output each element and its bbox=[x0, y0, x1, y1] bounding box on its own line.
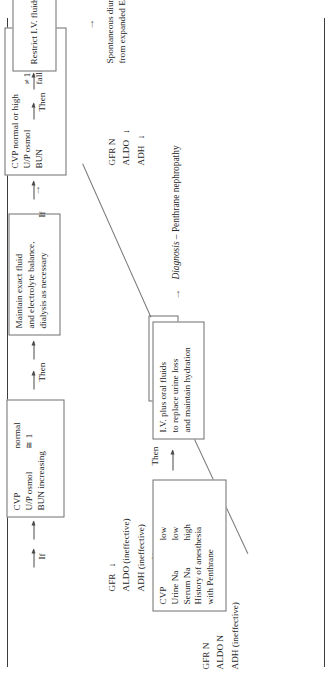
criteria-row: CVP low bbox=[157, 486, 169, 604]
connector-if-high-output: If bbox=[36, 553, 46, 559]
lab-row: ALDO ↓ bbox=[118, 129, 132, 165]
outcome-arrow-spontaneous-diuresis: → bbox=[84, 18, 95, 29]
outcome-line: Spontaneous diuresis bbox=[104, 0, 116, 63]
connector-then-spontaneous-diuresis: Then bbox=[36, 92, 46, 111]
lab-key: ADH (ineffective) bbox=[133, 524, 147, 591]
criteria-extra-line: with Penthrane bbox=[204, 486, 216, 604]
lab-key: ADH (ineffective) bbox=[227, 602, 241, 669]
lab-arrow: ↓ bbox=[133, 134, 147, 143]
arrow-then-penthrane bbox=[172, 450, 173, 470]
lab-key: ALDO N bbox=[212, 635, 226, 669]
action-line: and maintain hydration bbox=[181, 328, 193, 432]
criteria-name: U/P osmol bbox=[23, 448, 35, 510]
arrow-then-high-output-2 bbox=[33, 341, 34, 359]
outcome-penthrane: Diagnosis – Penthrane nephropathy bbox=[170, 145, 180, 279]
criteria-name: CVP bbox=[157, 540, 169, 604]
connector-then-penthrane: Then bbox=[149, 446, 159, 465]
criteria-row: Serum Na high bbox=[181, 486, 193, 604]
lab-arrow: ↓ bbox=[118, 129, 132, 138]
criteria-value: normal bbox=[11, 422, 23, 448]
outcome-arrow-penthrane: → bbox=[170, 288, 181, 299]
lab-row: ADH ↓ bbox=[133, 129, 147, 165]
lab-key: GFR N bbox=[104, 138, 118, 165]
figure-page: Urine volume high If GFR N ALDO N ADH (i… bbox=[0, 0, 329, 677]
action-line: and electrolyte balance, bbox=[25, 220, 37, 328]
connector-if-spontaneous-diuresis: If bbox=[36, 211, 46, 217]
arrow-then-spontaneous-diuresis bbox=[33, 103, 34, 119]
action-line: dialysis as necessary bbox=[37, 220, 49, 328]
action-line: Restrict I.V. fluids bbox=[28, 0, 40, 64]
criteria-name: U/P osmol bbox=[21, 84, 33, 168]
diagnosis-text: – Penthrane nephropathy bbox=[170, 145, 180, 241]
arrow-if-high-output bbox=[33, 549, 34, 567]
lab-row: GFR N bbox=[104, 129, 118, 165]
lab-key: GFR N bbox=[198, 642, 212, 669]
lab-arrow: ↓ bbox=[104, 562, 118, 571]
action-line: Maintain exact fluid bbox=[13, 220, 25, 328]
criteria-name: Urine Na bbox=[169, 540, 181, 604]
action-line: to replace urine loss bbox=[169, 328, 181, 432]
labs-penthrane-secondary: GFR ↓ ALDO (ineffective) ADH (ineffectiv… bbox=[104, 512, 147, 591]
criteria-name: CVP bbox=[11, 448, 23, 510]
criteria-row: BUN increasing bbox=[35, 406, 47, 510]
lab-key: ALDO (ineffective) bbox=[118, 518, 132, 591]
outcome-arrow-high-output: → bbox=[30, 184, 41, 195]
criteria-value: low bbox=[157, 526, 169, 540]
criteria-value: low bbox=[169, 526, 181, 540]
arrow-then-high-output bbox=[33, 371, 34, 389]
lab-key: ADH bbox=[133, 145, 147, 165]
outcome-line: from expanded ECF bbox=[116, 0, 128, 63]
criteria-name: Serum Na bbox=[181, 540, 193, 604]
outcome-spontaneous-diuresis: Spontaneous diuresis from expanded ECF bbox=[104, 0, 128, 63]
lab-row: ALDO (ineffective) bbox=[118, 512, 132, 591]
criteria-value: high bbox=[181, 524, 193, 540]
lab-key: GFR bbox=[104, 573, 118, 591]
criteria-row: U/P osmol ≅ 1 bbox=[23, 406, 35, 510]
criteria-name: BUN increasing bbox=[35, 451, 47, 510]
lab-row: ADH (ineffective) bbox=[227, 595, 241, 669]
connector-then-high-output: Then bbox=[36, 362, 46, 381]
arrow-if-spontaneous-diuresis bbox=[33, 181, 34, 199]
branch-leader-to-spontaneous-diuresis bbox=[82, 163, 151, 317]
action-box-penthrane[interactable]: I.V. plus oral fluids to replace urine l… bbox=[152, 321, 204, 439]
arrow-if-high-output-2 bbox=[33, 521, 34, 539]
labs-spontaneous-diuresis: GFR N ALDO ↓ ADH ↓ bbox=[104, 129, 147, 165]
diagnosis-keyword: Diagnosis bbox=[170, 241, 180, 279]
arrow-then-spontaneous-diuresis-2 bbox=[33, 73, 34, 89]
lab-key: ALDO bbox=[118, 139, 132, 165]
criteria-row: CVP normal bbox=[11, 406, 23, 510]
action-box-high-output[interactable]: Maintain exact fluid and electrolyte bal… bbox=[8, 213, 60, 335]
criteria-name: CVP normal or high bbox=[9, 84, 21, 168]
condition-box-high-output[interactable]: CVP normal U/P osmol ≅ 1 BUN increasing bbox=[6, 399, 64, 517]
criteria-value: ≅ 1 bbox=[23, 433, 35, 448]
criteria-row: Urine Na low bbox=[169, 486, 181, 604]
criteria-extra-line: History of anesthesia bbox=[192, 486, 204, 604]
flowchart-canvas: Urine volume high If GFR N ALDO N ADH (i… bbox=[0, 0, 329, 677]
lab-row: GFR ↓ bbox=[104, 512, 118, 591]
condition-box-penthrane[interactable]: CVP low Urine Na low Serum Na high Histo… bbox=[152, 479, 226, 611]
lab-row: ADH (ineffective) bbox=[133, 512, 147, 591]
action-line: I.V. plus oral fluids bbox=[157, 328, 169, 432]
action-box-spontaneous-diuresis[interactable]: Restrict I.V. fluids bbox=[12, 0, 56, 71]
